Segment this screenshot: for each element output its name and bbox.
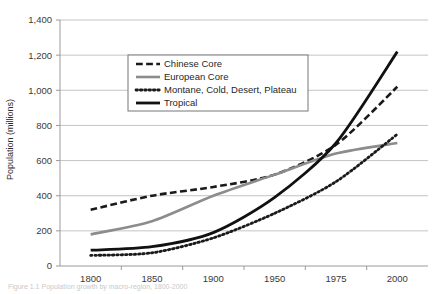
y-tick-label: 400 [36,190,52,201]
y-tick-label: 1,400 [28,14,52,25]
y-tick-label: 1,200 [28,50,52,61]
legend-label: Montane, Cold, Desert, Plateau [164,84,297,95]
legend-label: Tropical [164,97,197,108]
y-tick-label: 0 [47,260,52,271]
x-tick-label: 1850 [141,273,162,282]
figure-container: 02004006008001,0001,2001,400 18001850190… [0,0,438,294]
x-tick-label: 2000 [387,273,408,282]
chart-legend[interactable]: Chinese CoreEuropean CoreMontane, Cold, … [128,55,308,111]
x-tick-label: 1975 [325,273,346,282]
legend-label: Chinese Core [164,58,222,69]
y-tick-label: 1,000 [28,85,52,96]
chart-background [0,0,438,282]
chart-plot-area: 02004006008001,0001,2001,400 18001850190… [0,0,438,282]
y-axis-label: Population (millions) [5,99,15,180]
legend-label: European Core [164,71,228,82]
x-tick-label: 1950 [264,273,285,282]
figure-caption: Figure 1.1 Population growth by macro-re… [8,282,428,294]
y-tick-label: 200 [36,225,52,236]
x-tick-label: 1900 [203,273,224,282]
y-tick-label: 600 [36,155,52,166]
y-tick-label: 800 [36,120,52,131]
x-tick-label: 1800 [80,273,101,282]
population-line-chart: 02004006008001,0001,2001,400 18001850190… [0,0,438,282]
